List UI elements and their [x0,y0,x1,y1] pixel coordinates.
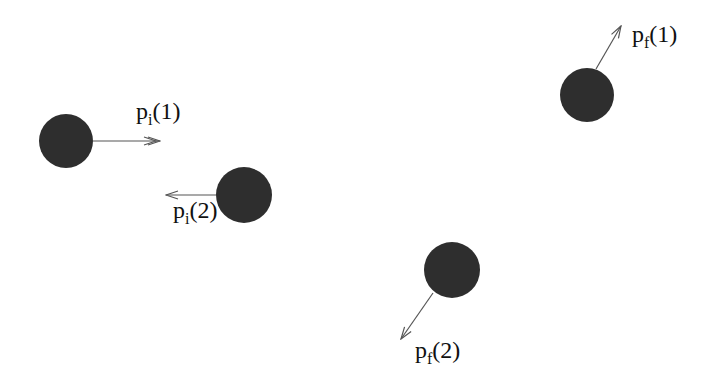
label-arg: (2) [432,337,460,363]
label-base: p [136,98,148,124]
particle-final-2 [424,242,480,298]
collision-diagram [0,0,724,391]
label-arg: (2) [189,197,217,223]
particle-final-1 [560,68,614,122]
label-base: p [173,197,185,223]
particle-initial-1 [39,114,93,168]
label-arg: (1) [152,98,180,124]
arrow-pf1 [596,26,621,69]
label-base: p [632,21,644,47]
particle-initial-2 [216,167,272,223]
arrow-pf2 [401,293,433,339]
label-pi1: pi(1) [136,99,180,128]
label-pf2: pf(2) [415,338,460,367]
label-pf1: pf(1) [632,22,677,51]
label-arg: (1) [649,21,677,47]
label-pi2: pi(2) [173,198,217,227]
label-base: p [415,337,427,363]
